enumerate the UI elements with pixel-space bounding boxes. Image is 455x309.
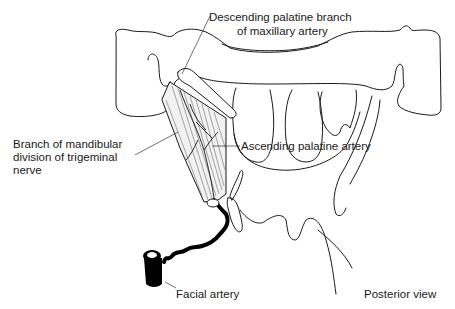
stylohyoid-process: [230, 170, 243, 200]
label-mandibular-branch-line1: Branch of mandibular: [13, 138, 122, 152]
label-descending-palatine-line1: Descending palatine branch: [209, 11, 352, 25]
label-facial-artery: Facial artery: [176, 288, 239, 302]
label-descending-palatine-line2: of maxillary artery: [237, 25, 328, 39]
label-mandibular-branch-line3: nerve: [13, 164, 42, 178]
facial-artery-vessel: [164, 200, 228, 262]
label-view: Posterior view: [364, 288, 436, 302]
uvula-region: [320, 90, 357, 135]
epiglottis: [240, 210, 336, 294]
label-mandibular-branch-line2: division of trigeminal: [13, 151, 117, 165]
anatomical-figure: Descending palatine branch of maxillary …: [0, 0, 455, 309]
label-ascending-palatine: Ascending palatine artery: [241, 140, 371, 154]
